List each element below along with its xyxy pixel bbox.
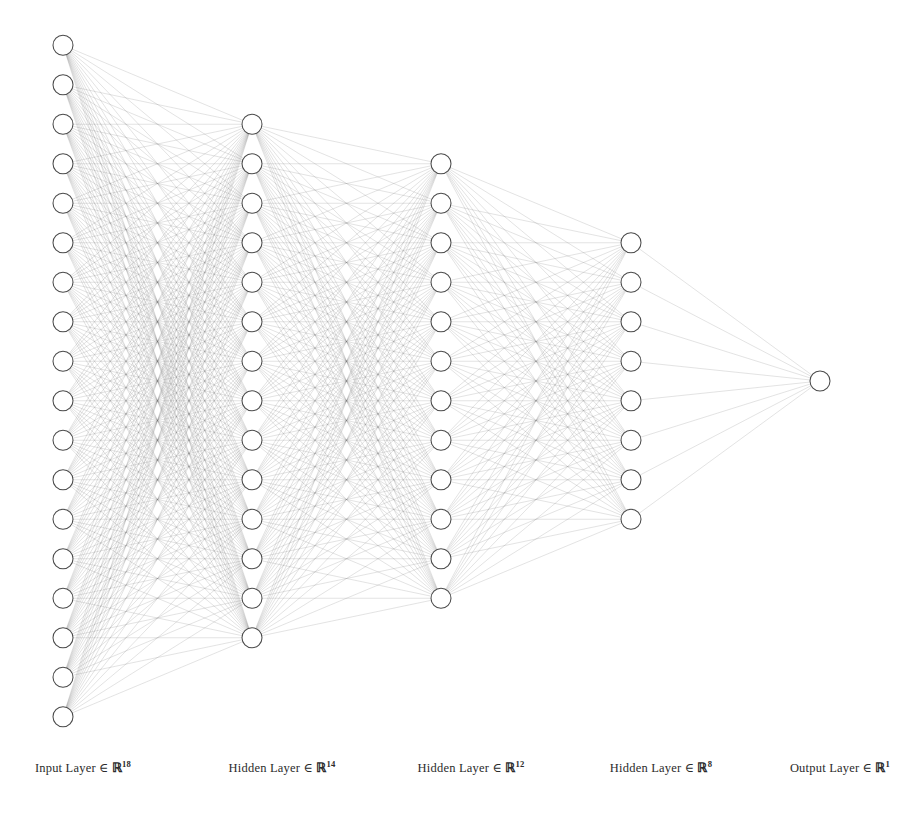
network-node [53,154,73,174]
network-node [431,391,451,411]
network-node [53,391,73,411]
network-node [810,371,830,391]
network-node [53,193,73,213]
nodes-group [53,35,830,727]
network-node [431,154,451,174]
network-node [431,233,451,253]
layer-label-text: Hidden Layer ∈ [610,761,698,775]
network-edge [451,205,621,240]
network-edge [450,523,622,594]
network-node [431,549,451,569]
network-node [53,75,73,95]
network-edge [447,330,626,590]
network-node [53,430,73,450]
network-edge [641,384,811,437]
network-node [242,430,262,450]
network-edge [67,291,248,707]
network-node [242,391,262,411]
network-node [53,35,73,55]
network-edge [640,287,811,376]
layer-label-0: Input Layer ∈ ℝ18 [35,759,132,775]
network-edge [450,168,622,239]
network-node [53,549,73,569]
network-edge [639,249,812,375]
network-edge [69,449,247,709]
network-node [621,430,641,450]
network-node [242,351,262,371]
network-node [431,470,451,490]
network-node [431,272,451,292]
network-node [242,588,262,608]
network-node [431,193,451,213]
network-edge [258,370,436,630]
network-node [431,430,451,450]
network-node [53,707,73,727]
network-node [242,628,262,648]
network-node [53,351,73,371]
layer-label-1: Hidden Layer ∈ ℝ14 [229,759,336,775]
network-node [53,312,73,332]
network-edge [262,600,431,635]
layer-label-text: Hidden Layer ∈ [418,761,506,775]
network-edge [66,213,248,708]
layer-label-2: Hidden Layer ∈ ℝ12 [418,759,525,775]
network-node [53,509,73,529]
network-node [431,351,451,371]
network-node [621,312,641,332]
network-edge [73,87,242,122]
network-edge [262,126,431,161]
layer-label-4: Output Layer ∈ ℝ1 [790,759,890,775]
layer-label-text: Hidden Layer ∈ [229,761,317,775]
neural-network-diagram: Input Layer ∈ ℝ18Hidden Layer ∈ ℝ14Hidde… [0,0,900,825]
network-edge [641,362,810,380]
network-edge [259,447,434,630]
network-node [53,233,73,253]
layer-label-exponent: 14 [326,759,335,769]
network-edge [639,387,812,513]
network-node [621,391,641,411]
network-node [431,588,451,608]
network-node [53,588,73,608]
network-edge [70,526,245,709]
network-node [242,470,262,490]
network-edge [640,386,811,475]
layer-label-3: Hidden Layer ∈ ℝ8 [610,759,713,775]
network-node [242,193,262,213]
network-edge [448,408,624,591]
layer-label-exponent: 18 [122,759,131,769]
layer-label-exponent: 1 [886,759,891,769]
network-node [242,549,262,569]
network-node [431,312,451,332]
network-node [621,233,641,253]
network-canvas: Input Layer ∈ ℝ18Hidden Layer ∈ ℝ14Hidde… [0,0,900,825]
network-node [621,351,641,371]
network-node [242,114,262,134]
network-node [242,272,262,292]
layer-label-exponent: 8 [708,759,713,769]
network-edge [72,642,243,713]
network-node [242,233,262,253]
network-node [621,272,641,292]
network-node [431,509,451,529]
network-node [242,509,262,529]
layer-label-exponent: 12 [515,759,524,769]
network-edge [66,134,249,707]
network-node [53,470,73,490]
network-node [53,628,73,648]
network-edge [641,382,810,400]
network-edge [256,212,437,628]
network-node [53,667,73,687]
layer-label-text: Output Layer ∈ [790,761,876,775]
network-node [242,312,262,332]
network-edge [641,325,811,378]
network-edge [72,49,243,120]
network-node [621,470,641,490]
layer-label-text: Input Layer ∈ [35,761,112,775]
network-node [621,509,641,529]
edges-group [66,49,812,713]
network-node [53,272,73,292]
network-node [53,114,73,134]
layer-labels-group: Input Layer ∈ ℝ18Hidden Layer ∈ ℝ14Hidde… [35,759,890,775]
network-node [242,154,262,174]
